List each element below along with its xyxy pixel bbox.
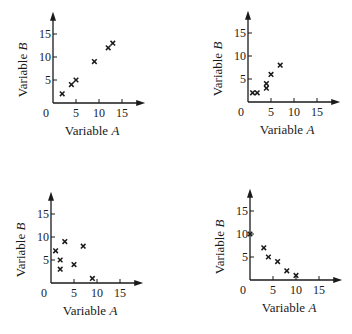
x-tick-label: 10	[91, 286, 103, 300]
y-axis-label: Variable B	[212, 220, 227, 275]
x-marker-icon	[266, 255, 271, 260]
x-tick-label: 15	[311, 105, 323, 119]
y-tick-label: 5	[45, 73, 51, 87]
x-marker-icon	[111, 41, 116, 46]
y-tick-label: 10	[37, 230, 49, 244]
x-marker-icon	[255, 91, 260, 96]
x-marker-icon	[275, 259, 280, 264]
x-tick-label: 0	[240, 283, 246, 297]
axes: 05101551015	[37, 192, 143, 300]
scatter-plot-top-left: 05101551015Variable AVariable B	[0, 0, 176, 167]
x-tick-label: 5	[270, 283, 276, 297]
data-points	[248, 232, 299, 278]
y-axis-label: Variable B	[13, 223, 28, 278]
x-tick-label: 15	[116, 106, 128, 120]
y-tick-label: 5	[240, 72, 246, 86]
y-axis-arrow-icon	[50, 12, 56, 21]
scatter-plot-top-right: 05101551015Variable AVariable B	[176, 0, 352, 167]
x-tick-label: 10	[288, 105, 300, 119]
y-tick-label: 10	[236, 227, 248, 241]
x-tick-label: 10	[93, 106, 105, 120]
y-axis-label: Variable B	[15, 43, 30, 98]
y-tick-label: 5	[43, 253, 49, 267]
x-tick-label: 5	[71, 286, 77, 300]
x-axis-label: Variable A	[63, 303, 118, 318]
x-tick-label: 10	[290, 283, 302, 297]
x-marker-icon	[262, 246, 267, 251]
x-marker-icon	[250, 91, 255, 96]
x-marker-icon	[264, 86, 269, 91]
x-marker-icon	[63, 239, 68, 244]
y-tick-label: 15	[234, 26, 246, 40]
x-axis-arrow-icon	[333, 277, 342, 283]
scatter-plot-bottom-right: 05101551015Variable AVariable B	[176, 167, 352, 334]
data-points	[60, 41, 115, 96]
x-marker-icon	[92, 59, 97, 64]
scatter-plot-bottom-left: 05101551015Variable AVariable B	[0, 167, 176, 334]
x-tick-label: 5	[73, 106, 79, 120]
x-axis-arrow-icon	[136, 100, 145, 106]
x-tick-label: 0	[41, 286, 47, 300]
x-marker-icon	[74, 78, 79, 83]
y-axis-arrow-icon	[247, 189, 253, 198]
x-axis-arrow-icon	[331, 99, 340, 105]
x-tick-label: 0	[43, 106, 49, 120]
x-marker-icon	[81, 244, 86, 249]
y-tick-label: 15	[37, 207, 49, 221]
x-marker-icon	[69, 82, 74, 87]
x-tick-label: 15	[313, 283, 325, 297]
y-axis-label: Variable B	[210, 42, 225, 97]
axes: 05101551015	[234, 11, 340, 119]
x-marker-icon	[53, 249, 58, 254]
x-axis-label: Variable A	[65, 123, 120, 138]
y-tick-label: 5	[242, 250, 248, 264]
x-marker-icon	[58, 267, 63, 272]
y-tick-label: 15	[236, 204, 248, 218]
y-axis-arrow-icon	[48, 192, 54, 201]
x-marker-icon	[278, 63, 283, 68]
x-marker-icon	[90, 276, 95, 281]
y-tick-label: 10	[39, 50, 51, 64]
x-axis-label: Variable A	[260, 122, 315, 137]
x-tick-label: 5	[268, 105, 274, 119]
x-marker-icon	[58, 258, 63, 263]
data-points	[250, 63, 282, 95]
data-points	[53, 239, 94, 280]
x-marker-icon	[72, 262, 77, 267]
x-axis-arrow-icon	[134, 280, 143, 286]
x-marker-icon	[269, 72, 274, 77]
axes: 05101551015	[236, 189, 342, 297]
y-tick-label: 15	[39, 27, 51, 41]
x-marker-icon	[106, 46, 111, 51]
y-tick-label: 10	[234, 49, 246, 63]
x-tick-label: 0	[238, 105, 244, 119]
y-axis-arrow-icon	[245, 11, 251, 20]
x-marker-icon	[264, 81, 269, 86]
x-axis-label: Variable A	[262, 300, 317, 315]
x-marker-icon	[60, 92, 65, 97]
axes: 05101551015	[39, 12, 145, 120]
x-marker-icon	[285, 269, 290, 274]
x-tick-label: 15	[114, 286, 126, 300]
